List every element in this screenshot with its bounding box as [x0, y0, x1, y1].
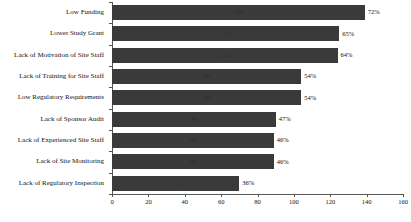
- x-axis-tick: [221, 194, 222, 197]
- x-axis-tick-label: 80: [254, 199, 261, 206]
- x-axis-tick: [294, 194, 295, 197]
- bar[interactable]: 8946%: [112, 133, 274, 148]
- bar[interactable]: 12464%: [112, 48, 338, 63]
- category-label: Lack of Sponsor Audit: [0, 109, 108, 130]
- x-axis-tick: [330, 194, 331, 197]
- x-axis-tick: [367, 194, 368, 197]
- category-label: Low Funding: [0, 2, 108, 23]
- bar[interactable]: 12565%: [112, 26, 339, 41]
- x-axis-tick-label: 140: [362, 199, 372, 206]
- x-axis-tick: [112, 194, 113, 197]
- bar-count-label: 139: [234, 10, 242, 15]
- x-axis-tick-label: 100: [289, 199, 299, 206]
- plot-area: 13972%12565%12464%10454%10454%9047%8946%…: [112, 2, 403, 194]
- x-axis-tick: [258, 194, 259, 197]
- bar-count-label: 70: [173, 181, 178, 186]
- bar-count-label: 104: [203, 95, 211, 100]
- bar-row: 8946%: [112, 130, 403, 151]
- x-axis-tick-label: 160: [398, 199, 408, 206]
- bar-percent-label: 46%: [277, 137, 289, 144]
- bar[interactable]: 10454%: [112, 69, 301, 84]
- bar[interactable]: 13972%: [112, 5, 365, 20]
- bar-percent-label: 47%: [279, 116, 291, 123]
- bar[interactable]: 8946%: [112, 154, 274, 169]
- bar-count-label: 124: [221, 53, 229, 58]
- bar-count-label: 90: [191, 117, 196, 122]
- bar-percent-label: 72%: [368, 9, 380, 16]
- bar-row: 8946%: [112, 151, 403, 172]
- bar-chart: Low FundingLower Study GrantLack of Moti…: [0, 0, 411, 222]
- x-axis-line: 020406080100120140160: [112, 194, 403, 195]
- category-label: Low Regulatory Requirements: [0, 87, 108, 108]
- category-label: Lower Study Grant: [0, 23, 108, 44]
- category-label: Lack of Regulatory Inspection: [0, 173, 108, 194]
- bar-row: 10454%: [112, 87, 403, 108]
- bar[interactable]: 10454%: [112, 90, 301, 105]
- bar-percent-label: 65%: [342, 31, 354, 38]
- category-label: Lack of Experienced Site Staff: [0, 130, 108, 151]
- bar-count-label: 104: [203, 74, 211, 79]
- bar-row: 9047%: [112, 109, 403, 130]
- bar-row: 12464%: [112, 45, 403, 66]
- bar-percent-label: 64%: [341, 52, 353, 59]
- x-axis-tick-label: 40: [182, 199, 189, 206]
- bar[interactable]: 9047%: [112, 112, 276, 127]
- bar-count-label: 125: [222, 31, 230, 36]
- category-label: Lack of Motivation of Site Staff: [0, 45, 108, 66]
- bar-count-label: 89: [190, 138, 195, 143]
- bar-row: 7036%: [112, 173, 403, 194]
- x-axis-tick-label: 60: [218, 199, 225, 206]
- x-axis-tick-label: 120: [325, 199, 335, 206]
- x-axis-tick: [403, 194, 404, 197]
- bar-count-label: 89: [190, 159, 195, 164]
- bar-percent-label: 54%: [304, 73, 316, 80]
- bar-percent-label: 54%: [304, 95, 316, 102]
- x-axis-tick: [185, 194, 186, 197]
- x-axis-tick-label: 20: [145, 199, 152, 206]
- bar[interactable]: 7036%: [112, 176, 239, 191]
- bar-row: 13972%: [112, 2, 403, 23]
- category-label: Lack of Training for Site Staff: [0, 66, 108, 87]
- bar-row: 10454%: [112, 66, 403, 87]
- bar-row: 12565%: [112, 23, 403, 44]
- bar-percent-label: 46%: [277, 159, 289, 166]
- category-label: Lack of Site Monitoring: [0, 151, 108, 172]
- bar-rows: 13972%12565%12464%10454%10454%9047%8946%…: [112, 2, 403, 194]
- bar-percent-label: 36%: [242, 180, 254, 187]
- x-axis-tick-label: 0: [110, 199, 113, 206]
- x-axis-tick: [148, 194, 149, 197]
- category-axis-labels: Low FundingLower Study GrantLack of Moti…: [0, 2, 108, 194]
